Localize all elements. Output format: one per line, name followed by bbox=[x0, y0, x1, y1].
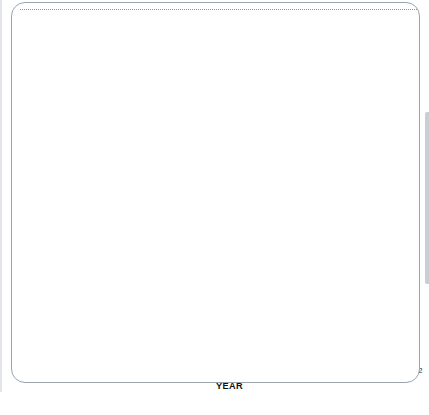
chart-card-frame bbox=[11, 2, 420, 383]
chart-page: 01020304050607080 NEWSPAPER ENDORSEMENTS… bbox=[0, 0, 429, 415]
right-scroll-tab[interactable] bbox=[425, 112, 429, 284]
page-left-edge bbox=[0, 0, 2, 392]
dotted-divider bbox=[20, 9, 417, 10]
